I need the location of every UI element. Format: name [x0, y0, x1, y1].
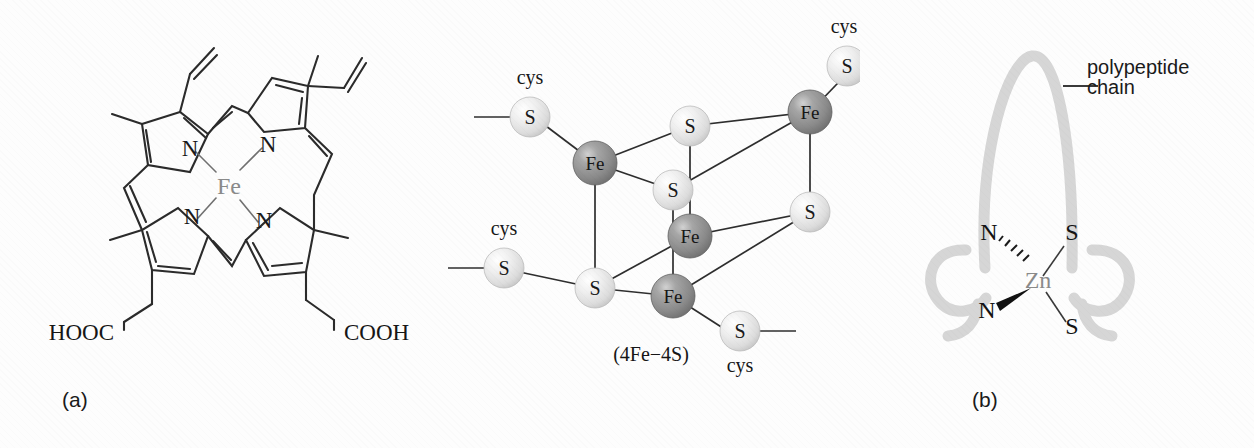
cluster-caption: (4Fe−4S)	[541, 343, 761, 366]
zinc-center-label: Zn	[1025, 267, 1052, 293]
panel-label-a: (a)	[62, 388, 88, 412]
sulfur-label-cys-4: S	[734, 320, 745, 342]
sulfur-label-cys-1: S	[524, 106, 535, 128]
carboxyl-label-right: COOH	[344, 320, 409, 345]
cys-label-2: cys	[491, 217, 518, 240]
nitrogen-label-top-left: N	[182, 136, 199, 161]
sulfur-label-top: S	[1065, 219, 1078, 245]
zn-n-hashed-wedge	[999, 236, 1029, 261]
cys-label-1: cys	[517, 66, 544, 89]
iron-label-3: Fe	[681, 226, 700, 247]
nitrogen-label-bottom-left: N	[184, 204, 201, 229]
zn-s-bond-bottom	[1046, 292, 1066, 322]
sulfur-label-bottom: S	[1065, 313, 1078, 339]
methyl-3	[110, 230, 142, 240]
zinc-site-svg: N N S S Zn	[860, 0, 1254, 448]
sulfur-label-core-3: S	[804, 201, 815, 223]
heme-structure-svg: N N N N Fe HOOC COOH	[0, 0, 440, 448]
methyl-4	[314, 230, 348, 238]
iron-center-label: Fe	[217, 173, 241, 199]
propionate-right	[306, 272, 334, 330]
carboxyl-label-left: HOOC	[49, 320, 114, 345]
vinyl-group-right-2	[305, 76, 344, 128]
figure-canvas: N N N N Fe HOOC COOH (a)	[0, 0, 1254, 448]
sulfur-label-core-4: S	[589, 277, 600, 299]
polypeptide-chain-annotation: polypeptide chain	[1087, 57, 1189, 97]
panel-a-heme: N N N N Fe HOOC COOH (a)	[0, 0, 440, 448]
sulfur-label-core-2: S	[667, 179, 678, 201]
nitrogen-label-top: N	[980, 219, 997, 245]
iron-sulfur-cluster-svg: S S S S S S S S Fe Fe Fe Fe cys cys cys …	[440, 0, 860, 448]
iron-label-2: Fe	[801, 102, 820, 123]
nitrogen-label-top-right: N	[260, 132, 277, 157]
methyl-1	[112, 114, 142, 124]
sulfur-label-cys-3: S	[841, 55, 852, 77]
panel-b-iron-sulfur-cluster: S S S S S S S S Fe Fe Fe Fe cys cys cys …	[440, 0, 860, 448]
nitrogen-label-bottom: N	[978, 297, 995, 323]
cys-label-3: cys	[831, 15, 858, 38]
sulfur-label-cys-2: S	[498, 257, 509, 279]
nitrogen-label-bottom-right: N	[256, 208, 273, 233]
iron-label-1: Fe	[586, 153, 605, 174]
panel-c-zinc-site: N N S S Zn (c)	[860, 0, 1254, 448]
iron-label-4: Fe	[664, 286, 683, 307]
vinyl-group-left	[180, 48, 217, 112]
propionate-left	[124, 270, 152, 330]
sulfur-label-core-1: S	[684, 115, 695, 137]
methyl-2	[308, 56, 318, 86]
